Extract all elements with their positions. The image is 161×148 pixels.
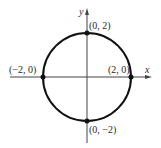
point-left (41, 75, 46, 80)
x-axis-label: x (144, 64, 150, 75)
point-bottom (85, 119, 90, 124)
label-left-point: (−2, 0) (9, 64, 36, 76)
label-top-point: (0, 2) (89, 20, 111, 32)
y-axis-arrow-icon (85, 8, 89, 15)
y-axis-label: y (78, 6, 84, 17)
circle-diagram: y x (0, 2) (−2, 0) (2, 0) (0, −2) (0, 0, 161, 148)
x-axis-arrow-icon (145, 75, 152, 79)
label-bottom-point: (0, −2) (89, 124, 116, 136)
point-right (129, 75, 134, 80)
label-right-point: (2, 0) (108, 64, 130, 76)
point-top (85, 31, 90, 36)
